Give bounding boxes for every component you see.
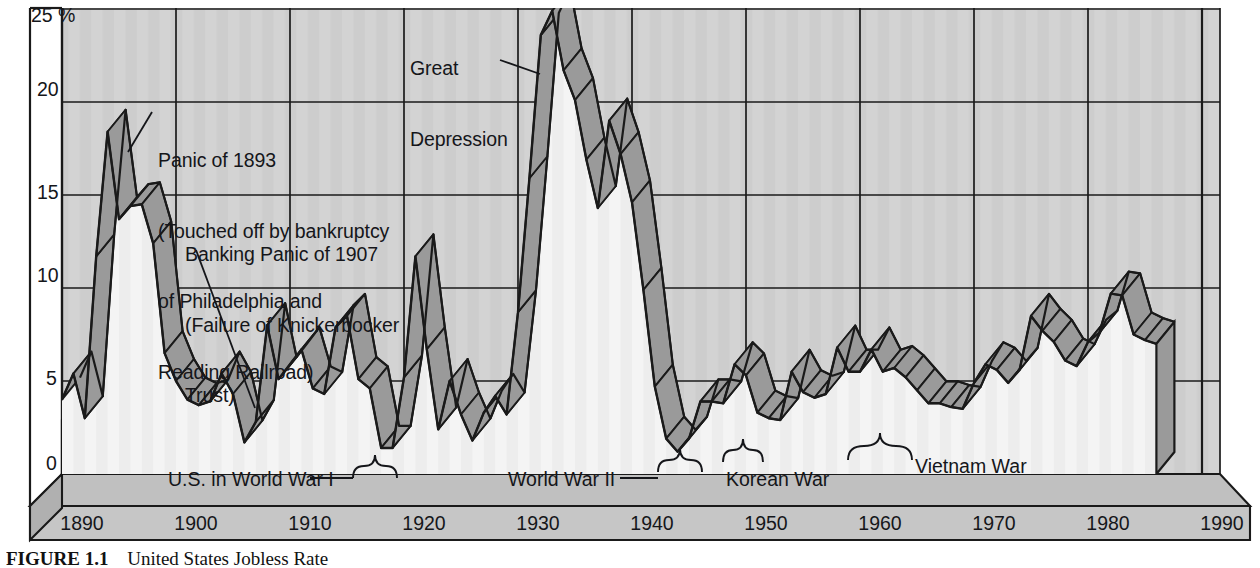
x-tick-label-1930: 1930 — [498, 512, 578, 535]
x-tick-label-1960: 1960 — [840, 512, 920, 535]
annotation-banking-panic-1907: Banking Panic of 1907 (Failure of Knicke… — [185, 196, 399, 455]
annotation-line: Panic of 1893 — [158, 149, 389, 173]
war-label-world-war-i: U.S. in World War I — [168, 468, 334, 491]
annotation-great-depression: Great Depression — [410, 10, 508, 198]
annotation-line: Banking Panic of 1907 — [185, 243, 399, 267]
figure-caption: FIGURE 1.1 United States Jobless Rate — [6, 548, 1246, 568]
x-tick-label-1970: 1970 — [954, 512, 1034, 535]
x-tick-label-1980: 1980 — [1068, 512, 1148, 535]
annotation-line: (Failure of Knickerbocker — [185, 314, 399, 338]
x-tick-label-1890: 1890 — [42, 512, 122, 535]
x-tick-label-1920: 1920 — [384, 512, 464, 535]
y-tick-label-0: 0 — [46, 452, 57, 475]
war-label-vietnam-war: Vietnam War — [915, 455, 1027, 478]
war-label-world-war-ii: World War II — [508, 468, 615, 491]
x-tick-label-1950: 1950 — [726, 512, 806, 535]
y-tick-label-10: 10 — [37, 264, 59, 287]
war-label-korean-war: Korean War — [726, 468, 829, 491]
x-tick-label-1990: 1990 — [1182, 512, 1260, 535]
x-tick-label-1900: 1900 — [156, 512, 236, 535]
figure-caption-text: United States Jobless Rate — [127, 548, 328, 568]
x-tick-label-1940: 1940 — [612, 512, 692, 535]
annotation-line: Trust) — [185, 384, 399, 408]
x-tick-label-1910: 1910 — [270, 512, 350, 535]
y-tick-label-25: 25 % — [31, 4, 75, 27]
annotation-line: Depression — [410, 128, 508, 152]
y-tick-label-20: 20 — [37, 78, 59, 101]
figure-root: 25 % 20 15 10 5 0 1890 1900 1910 1920 19… — [0, 0, 1260, 568]
y-tick-label-15: 15 — [37, 181, 59, 204]
y-tick-label-5: 5 — [46, 367, 57, 390]
figure-caption-number: FIGURE 1.1 — [6, 548, 108, 568]
annotation-line: Great — [410, 57, 508, 81]
